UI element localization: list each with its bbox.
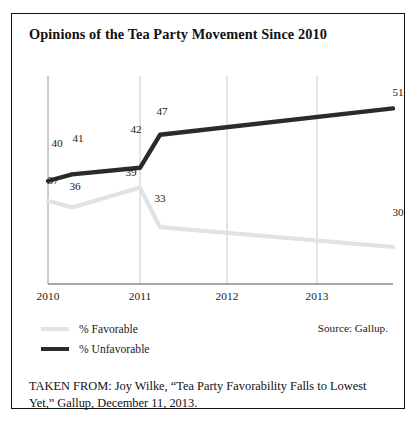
legend-swatch-unfavorable-icon — [41, 347, 69, 351]
data-label-unfavorable-2010: 40 — [51, 137, 62, 149]
data-label-unfavorable-2011b: 47 — [156, 105, 167, 117]
source-note: Source: Gallup. — [318, 322, 388, 334]
data-label-favorable-2011b: 33 — [154, 192, 165, 204]
data-label-unfavorable-2013: 51 — [392, 86, 403, 98]
legend-label-favorable: % Favorable — [79, 323, 138, 336]
data-label-favorable-2011: 39 — [125, 166, 136, 178]
chart-plot-area: 2010 2011 2012 2013 40 41 42 47 51 37 36… — [12, 62, 404, 302]
data-label-favorable-2013: 30 — [392, 206, 403, 218]
chart-legend: % Favorable % Unfavorable — [41, 319, 150, 359]
figure-caption: TAKEN FROM: Joy Wilke, “Tea Party Favora… — [29, 378, 387, 411]
figure-frame: Opinions of the Tea Party Movement Since… — [11, 13, 405, 409]
x-tick-2011: 2011 — [129, 290, 151, 302]
series-line-favorable — [48, 188, 393, 247]
data-label-unfavorable-2011: 42 — [130, 123, 141, 135]
series-line-unfavorable — [48, 108, 393, 181]
x-tick-2012: 2012 — [216, 290, 239, 302]
x-tick-2010: 2010 — [37, 290, 60, 302]
legend-label-unfavorable: % Unfavorable — [79, 343, 150, 356]
data-label-favorable-2010b: 36 — [69, 180, 80, 192]
legend-item-unfavorable: % Unfavorable — [41, 339, 150, 359]
data-label-favorable-2010: 37 — [47, 174, 58, 186]
gridlines — [48, 76, 317, 284]
page-title: Opinions of the Tea Party Movement Since… — [29, 26, 327, 43]
x-tick-2013: 2013 — [306, 290, 329, 302]
legend-swatch-favorable-icon — [41, 327, 69, 330]
data-label-unfavorable-2010b: 41 — [72, 132, 83, 144]
legend-item-favorable: % Favorable — [41, 319, 150, 339]
